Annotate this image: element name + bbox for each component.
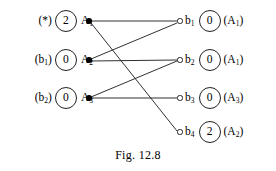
vertex-marker-a1 [86,18,92,24]
right-node-b2-subscript: 2 [191,58,195,67]
right-node-b2-value-circle: 0 [199,49,221,71]
right-node-b2-suffix-subscript: 1 [236,58,240,67]
edge-a2-b1 [91,23,177,59]
vertex-marker-b1 [177,18,182,23]
right-node-b4-row: b4 2 (A2) [184,121,243,143]
right-node-b2-suffix: (A1) [224,54,244,66]
left-node-a2-prefix: ((bb1) [35,54,52,66]
right-node-b3-subscript: 3 [191,96,195,105]
right-node-b4-value: 2 [207,126,213,138]
left-node-a2-value: 0 [63,54,69,66]
left-node-a3-value: 0 [63,92,69,104]
left-node-a3-value-circle: 0 [55,87,77,109]
left-node-a2-row: ((bb1) 0 A2 [35,49,94,71]
left-node-a1-value: 2 [63,15,69,27]
right-node-b3-suffix: (A3) [224,92,244,104]
vertex-marker-b4 [177,129,182,134]
left-node-a3-prefix: (b2) [35,92,52,104]
right-node-b3-suffix-subscript: 3 [236,96,240,105]
edge-a2-b2 [91,60,177,61]
right-node-b2-label: b2 [184,54,196,66]
vertex-marker-a2 [86,57,92,63]
edge-a3-b2 [91,61,177,97]
left-node-a1-value-circle: 2 [55,10,77,32]
left-node-a2-value-circle: 0 [55,49,77,71]
left-node-a1-prefix: (*) [39,15,52,27]
vertex-marker-a3 [86,95,92,101]
right-node-b4-suffix: (A2) [224,126,244,138]
edges-group [91,21,177,131]
right-node-b4-value-circle: 2 [199,121,221,143]
right-node-b4-suffix-subscript: 2 [236,130,240,139]
right-node-b1-subscript: 1 [191,19,195,28]
right-node-b1-row: b1 0 (A1) [184,10,243,32]
figure-caption: Fig. 12.8 [0,148,276,163]
right-node-b4-label: b4 [184,126,196,138]
right-node-b1-value: 0 [207,15,213,27]
right-node-b3-value-circle: 0 [199,87,221,109]
left-node-a3-row: (b2) 0 A3 [35,87,94,109]
right-node-b3-label: b3 [184,92,196,104]
right-node-b1-label: b1 [184,15,196,27]
left-node-a3-prefix-subscript: 2 [44,96,48,105]
figure-container: (*) 2 A1 ((bb1) 0 A2 (b2) 0 A3 b1 0 (A1)… [0,0,276,171]
right-node-b2-row: b2 0 (A1) [184,49,243,71]
right-node-b4-subscript: 4 [191,130,195,139]
edge-a1-b4 [91,23,177,131]
right-node-b3-row: b3 0 (A3) [184,87,243,109]
right-node-b1-suffix: (A1) [224,15,244,27]
vertex-marker-b2 [177,57,182,62]
right-node-b2-value: 0 [207,54,213,66]
vertex-marker-b3 [177,95,182,100]
right-node-b1-value-circle: 0 [199,10,221,32]
right-node-b1-suffix-subscript: 1 [236,19,240,28]
right-node-b3-value: 0 [207,92,213,104]
left-node-a2-prefix-subscript: 1 [44,58,48,67]
